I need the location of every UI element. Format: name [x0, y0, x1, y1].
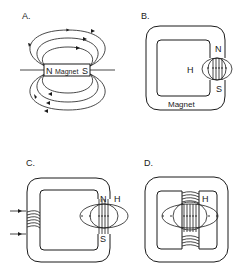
magnet-label: Magnet — [168, 100, 195, 109]
magnetic-field-diagram: A. N Magnet S B. — [0, 0, 247, 275]
current-arrows — [10, 209, 26, 236]
panel-d: D. — [144, 158, 228, 262]
field-h-label: H — [114, 194, 121, 204]
panel-d-label: D. — [144, 158, 153, 168]
north-pole-label: N — [100, 194, 107, 204]
gap-field-b — [202, 58, 232, 80]
panel-c: C. — [10, 158, 128, 262]
field-h-label: H — [187, 65, 194, 75]
south-pole-label: S — [100, 234, 106, 244]
magnet-label: Magnet — [55, 68, 78, 76]
south-pole-label: S — [82, 66, 88, 76]
field-lines-below — [30, 74, 105, 113]
coil — [27, 211, 40, 228]
panel-c-label: C. — [26, 158, 35, 168]
yoke-inner — [40, 190, 98, 250]
field-lines-above — [28, 29, 105, 66]
coil-top — [182, 192, 199, 203]
left-pole-piece — [157, 191, 182, 249]
north-pole-label: N — [46, 66, 53, 76]
panel-b-label: B. — [141, 11, 150, 21]
south-pole-label: S — [216, 84, 222, 94]
coil-bottom — [182, 236, 199, 247]
north-pole-label: N — [215, 44, 222, 54]
gap-field-c — [80, 199, 128, 234]
yoke-outer — [27, 178, 110, 262]
panel-b: B. N S H Magnet — [141, 11, 232, 110]
gap-field-d — [162, 202, 218, 232]
field-h-label: H — [202, 194, 209, 204]
panel-a-label: A. — [22, 11, 31, 21]
panel-a: A. N Magnet S — [20, 11, 115, 113]
